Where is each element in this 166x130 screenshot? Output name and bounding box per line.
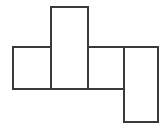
face-center-tall-rectangle	[51, 7, 88, 89]
face-left-square	[13, 47, 51, 89]
figure-canvas	[0, 0, 166, 130]
net-diagram-svg	[0, 0, 166, 130]
face-lower-right-rectangle	[124, 47, 158, 122]
